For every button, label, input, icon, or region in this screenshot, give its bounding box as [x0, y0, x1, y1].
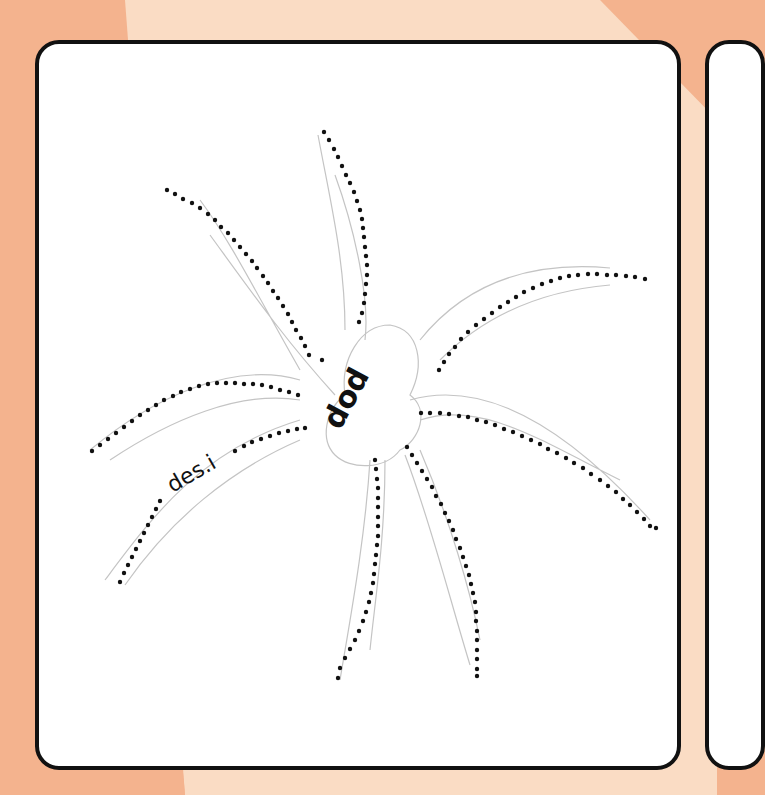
leg-dots-bottom-right: [405, 445, 479, 678]
leg-dots-left-upper: [90, 381, 300, 453]
leg-dots-top: [322, 130, 369, 324]
body-label: dod: [315, 362, 376, 435]
spider-outline: [90, 135, 650, 680]
leg-dots-right-upper: [437, 272, 647, 372]
leg-label: des.i: [162, 450, 220, 498]
leg-dots-right-mid: [419, 411, 658, 530]
leg-dots-upper-left: [165, 188, 324, 362]
tracing-dots: [90, 130, 658, 680]
